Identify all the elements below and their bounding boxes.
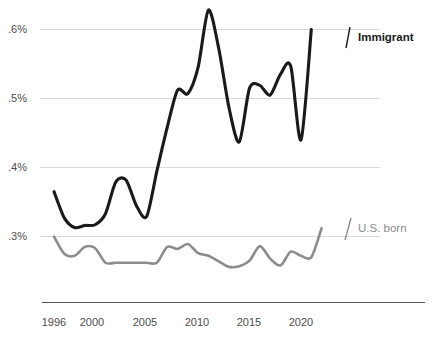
immigrant-label-leader [346,27,350,48]
series-label-immigrant: Immigrant [358,31,414,43]
x-axis-labels: 1996 2000 2005 2010 2015 2020 [42,316,313,328]
gridlines [40,30,380,237]
y-tick-label-3: .3% [8,230,27,242]
y-tick-label-1: .5% [8,92,27,104]
y-axis-labels: .6% .5% .4% .3% [8,23,27,242]
x-tick-label-1996: 1996 [42,316,66,328]
series-line-us-born [54,228,322,267]
series-label-us-born: U.S. born [358,222,407,234]
x-tick-label-2000: 2000 [80,316,104,328]
y-tick-label-2: .4% [8,161,27,173]
chart-container: .6% .5% .4% .3% 1996 2000 2005 2010 2015… [0,0,433,347]
x-tick-label-2015: 2015 [237,316,261,328]
x-tick-label-2005: 2005 [133,316,157,328]
line-chart-plot: .6% .5% .4% .3% 1996 2000 2005 2010 2015… [0,0,433,347]
x-tick-label-2020: 2020 [289,316,313,328]
series-line-immigrant [54,10,311,228]
y-tick-label-0: .6% [8,23,27,35]
x-tick-label-2010: 2010 [185,316,209,328]
